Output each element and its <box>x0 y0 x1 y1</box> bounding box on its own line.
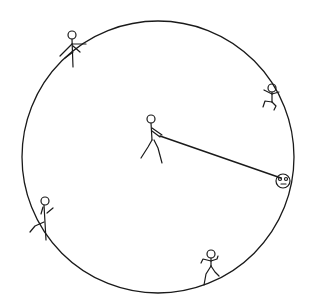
rim-circle <box>22 21 294 293</box>
top-left-stick-figure <box>60 31 86 67</box>
top-right-stick-figure <box>263 84 279 110</box>
diagram-canvas <box>0 0 311 305</box>
center-stick-figure <box>141 115 162 163</box>
bottom-left-stick-figure <box>30 197 53 240</box>
rope-line <box>160 136 281 178</box>
smiley-face <box>276 174 290 188</box>
